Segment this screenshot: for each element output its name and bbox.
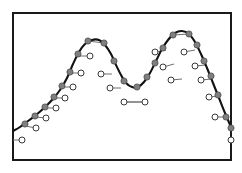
curve-marker-m19 <box>201 58 207 64</box>
curve-marker-m14 <box>152 60 158 66</box>
open-marker-o11 <box>142 99 148 105</box>
curve-marker-m3 <box>42 104 48 110</box>
open-marker-o16 <box>192 63 198 69</box>
open-marker-o7 <box>87 53 93 59</box>
curve-marker-m15 <box>160 45 166 51</box>
curve-marker-m11 <box>121 78 127 84</box>
curve-marker-m2 <box>32 113 38 119</box>
open-marker-o4 <box>62 95 68 101</box>
curve-marker-m13 <box>144 74 150 80</box>
curve-marker-m1 <box>22 121 28 127</box>
curve-marker-m22 <box>223 114 229 120</box>
open-marker-o8 <box>98 71 104 77</box>
open-marker-o2 <box>43 115 49 121</box>
open-marker-o5 <box>70 84 76 90</box>
curve-marker-m18 <box>194 42 200 48</box>
curve-marker-m21 <box>215 92 221 98</box>
open-marker-o12 <box>152 49 158 55</box>
curve-marker-m17 <box>186 31 192 37</box>
open-marker-o20 <box>228 137 234 143</box>
curve-marker-m5 <box>59 83 65 89</box>
open-marker-o0 <box>19 137 25 143</box>
open-marker-o6 <box>78 70 84 76</box>
curve-marker-m8 <box>85 38 91 44</box>
curve-marker-m20 <box>208 73 214 79</box>
curve-marker-m9 <box>101 40 107 46</box>
open-marker-o3 <box>53 105 59 111</box>
open-marker-o15 <box>181 49 187 55</box>
curve-marker-m4 <box>51 94 57 100</box>
curve-marker-m7 <box>75 51 81 57</box>
plot-frame <box>13 13 231 160</box>
open-marker-o13 <box>160 64 166 70</box>
curve-marker-m6 <box>67 69 73 75</box>
open-marker-o14 <box>168 77 174 83</box>
curve-marker-m12 <box>134 84 140 90</box>
curve-marker-m16 <box>170 32 176 38</box>
open-marker-o10 <box>121 99 127 105</box>
plot-canvas <box>0 0 242 173</box>
open-marker-o9 <box>107 85 113 91</box>
figure-container <box>0 0 242 173</box>
open-marker-o19 <box>212 114 218 120</box>
open-marker-o17 <box>198 77 204 83</box>
open-marker-o18 <box>206 94 212 100</box>
open-marker-o1 <box>33 125 39 131</box>
curve-marker-m23 <box>228 125 234 131</box>
curve-marker-m10 <box>111 58 117 64</box>
